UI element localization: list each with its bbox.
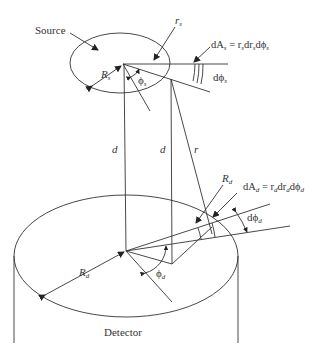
Rd-label: Rd <box>221 172 233 186</box>
dphis-label: dϕs <box>213 71 227 85</box>
dAd-equation: dAd = rddrddϕd <box>243 181 305 194</box>
detector-radial-line-2 <box>126 226 290 251</box>
d-label-1: d <box>112 143 118 155</box>
dAd-arc-1 <box>198 228 201 239</box>
source-label: Source <box>35 24 66 36</box>
Rd-arrow <box>196 185 223 223</box>
dphis-arc-2 <box>197 64 199 83</box>
d-line-1 <box>124 64 126 251</box>
source-arrow <box>70 33 98 50</box>
source-radial-line-2 <box>123 64 210 92</box>
dphis-arc-3 <box>201 64 203 84</box>
connecting-lines <box>124 64 212 264</box>
detector-disk <box>14 185 290 343</box>
d-label-2: d <box>160 143 166 155</box>
dphis-arc-1 <box>193 64 195 81</box>
dAd-arc-2 <box>212 223 215 237</box>
source-disk <box>70 27 228 111</box>
detector-label: Detector <box>104 326 142 338</box>
Rs-label: Rs <box>100 68 111 82</box>
phid-label: ϕd <box>156 267 166 281</box>
rs-label: rs <box>175 14 182 28</box>
dAs-equation: dAs = rsdrsdϕs <box>211 39 269 52</box>
r-line <box>171 79 212 234</box>
source-detector-diagram: Source rs Rs ϕs dϕs dAs = rsdrsdϕs d d r… <box>0 0 327 357</box>
Rd-radius-label: Rd <box>78 266 90 280</box>
projection-line <box>172 227 212 264</box>
dAs-arrow <box>194 47 210 62</box>
rs-arrow <box>154 27 175 60</box>
dphid-arc <box>236 212 247 232</box>
r-label: r <box>194 143 199 155</box>
phis-label: ϕs <box>138 74 147 88</box>
dphid-label: dϕd <box>247 211 262 225</box>
dAd-arrow <box>213 193 237 217</box>
